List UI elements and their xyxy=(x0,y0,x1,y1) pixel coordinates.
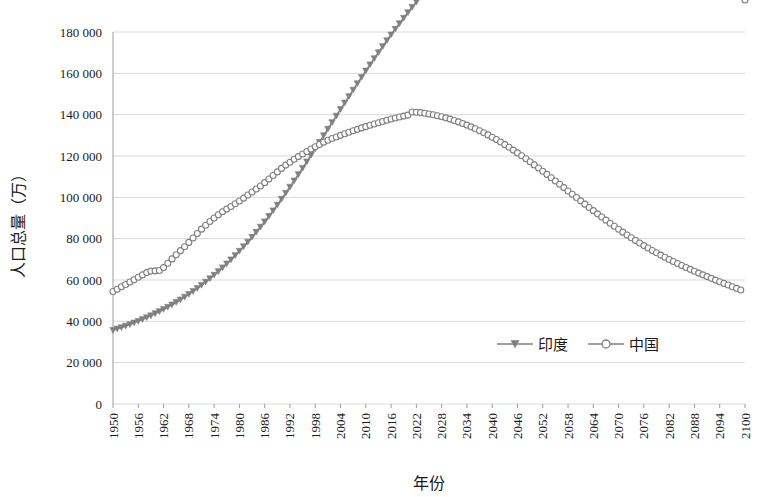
legend-marker xyxy=(602,340,610,348)
y-tick-label-4: 80 000 xyxy=(66,231,102,246)
x-tick-label-25: 2100 xyxy=(738,413,753,439)
x-tick-label-22: 2082 xyxy=(662,413,677,439)
series-line xyxy=(113,112,741,291)
x-tick-label-21: 2076 xyxy=(636,413,651,440)
x-tick-label-16: 2046 xyxy=(510,413,525,440)
x-tick-label-3: 1968 xyxy=(181,413,196,439)
x-tick-label-6: 1986 xyxy=(257,413,272,440)
x-tick-label-4: 1974 xyxy=(207,413,222,440)
y-tick-label-3: 60 000 xyxy=(66,273,102,288)
legend-label: 中国 xyxy=(629,337,659,353)
x-tick-label-13: 2028 xyxy=(434,413,449,439)
x-tick-label-0: 1950 xyxy=(106,413,121,439)
x-tick-label-19: 2064 xyxy=(586,413,601,440)
series-china xyxy=(110,0,748,295)
y-tick-label-7: 140 000 xyxy=(60,107,102,122)
data-point xyxy=(738,287,744,293)
y-tick-label-9: 180 000 xyxy=(60,25,102,40)
y-axis-title: 人口总量（万） xyxy=(10,166,27,278)
y-tick-label-5: 100 000 xyxy=(60,190,102,205)
x-tick-label-14: 2034 xyxy=(459,413,474,440)
legend-label: 印度 xyxy=(538,337,568,353)
y-axis-tick-labels: 020 00040 00060 00080 000100 000120 0001… xyxy=(60,25,102,412)
x-tick-label-12: 2022 xyxy=(409,413,424,439)
x-tick-label-20: 2070 xyxy=(611,413,626,439)
x-tick-label-15: 2040 xyxy=(485,413,500,439)
x-tick-label-8: 1998 xyxy=(308,413,323,439)
series-india xyxy=(110,0,744,333)
x-axis-tick-labels: 1950195619621968197419801986199219982004… xyxy=(106,404,753,439)
x-axis-title: 年份 xyxy=(413,475,445,492)
data-series xyxy=(110,0,748,333)
x-tick-label-1: 1956 xyxy=(131,413,146,440)
x-tick-label-10: 2010 xyxy=(358,413,373,439)
x-tick-label-5: 1980 xyxy=(232,413,247,439)
x-tick-label-18: 2058 xyxy=(561,413,576,439)
population-chart: 020 00040 00060 00080 000100 000120 0001… xyxy=(0,0,772,497)
y-tick-label-2: 40 000 xyxy=(66,314,102,329)
y-tick-label-8: 160 000 xyxy=(60,66,102,81)
chart-canvas: 020 00040 00060 00080 000100 000120 0001… xyxy=(0,0,772,497)
legend-item-india[interactable]: 印度 xyxy=(497,337,568,353)
chart-legend: 印度中国 xyxy=(497,337,659,353)
legend-item-china[interactable]: 中国 xyxy=(588,337,659,353)
x-tick-label-2: 1962 xyxy=(156,413,171,439)
y-tick-label-6: 120 000 xyxy=(60,149,102,164)
x-tick-label-11: 2016 xyxy=(384,413,399,440)
x-tick-label-17: 2052 xyxy=(535,413,550,439)
x-tick-label-9: 2004 xyxy=(333,413,348,440)
y-tick-label-1: 20 000 xyxy=(66,355,102,370)
data-point xyxy=(742,0,748,3)
y-tick-label-0: 0 xyxy=(96,397,103,412)
x-tick-label-24: 2094 xyxy=(712,413,727,440)
x-tick-label-7: 1992 xyxy=(282,413,297,439)
x-tick-label-23: 2088 xyxy=(687,413,702,439)
